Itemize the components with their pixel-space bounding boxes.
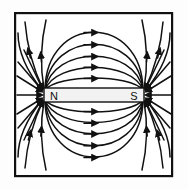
magnet-body bbox=[44, 88, 144, 102]
arrow-outer-br-a bbox=[147, 128, 148, 136]
arrow-outer-tr-a bbox=[147, 54, 148, 62]
south-pole-label: S bbox=[130, 90, 137, 102]
arrow-outer-tl-a bbox=[41, 54, 42, 62]
north-pole-label: N bbox=[50, 90, 58, 102]
arrow-outer-bl-a bbox=[41, 128, 42, 136]
bar-magnet: N S bbox=[44, 88, 144, 102]
figure-root: N S bbox=[0, 0, 188, 189]
magnetic-field-diagram: N S bbox=[0, 0, 188, 189]
